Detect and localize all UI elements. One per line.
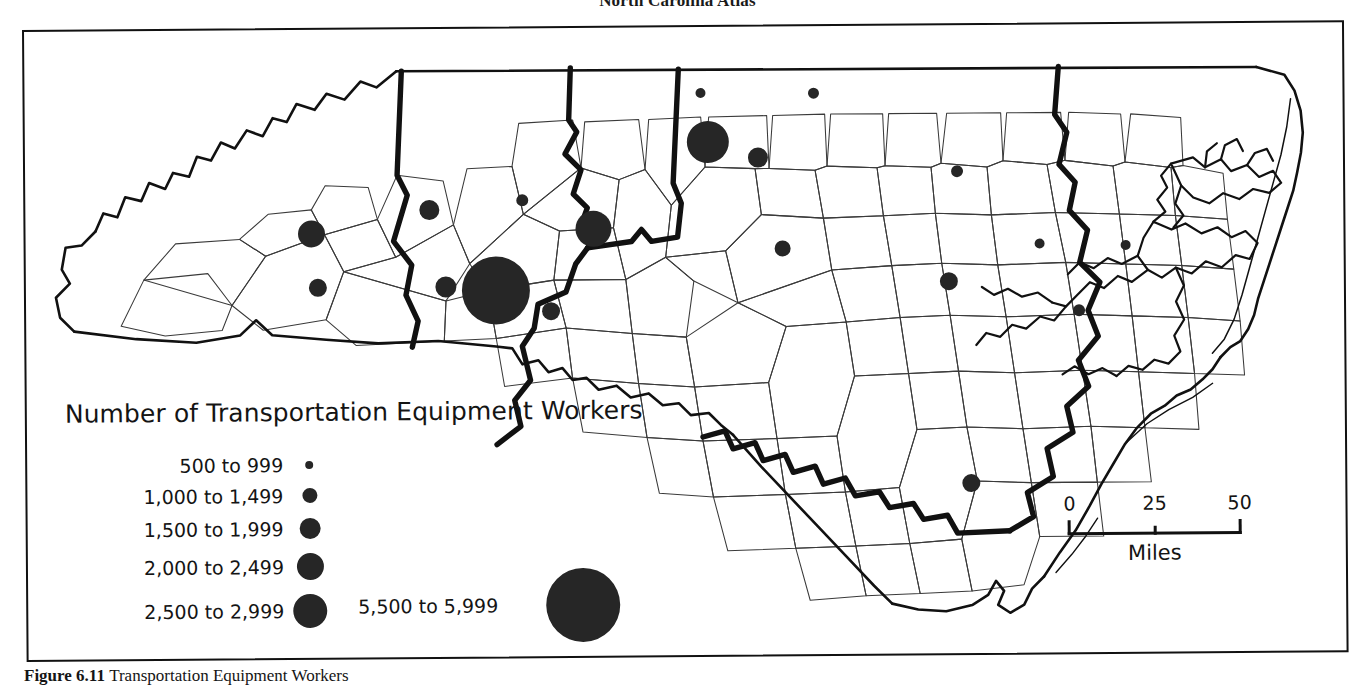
legend-large-label: 5,500 to 5,999 xyxy=(358,595,498,618)
scale-tick-50: 50 xyxy=(1227,491,1251,513)
legend-symbol xyxy=(284,518,336,539)
map-symbol xyxy=(940,272,958,290)
map-symbol xyxy=(575,211,611,247)
scale-tick-0: 0 xyxy=(1063,492,1075,514)
map-symbol xyxy=(695,88,705,98)
map-symbol xyxy=(951,165,963,177)
map-symbol xyxy=(1073,304,1085,316)
sounds-and-estuaries xyxy=(975,139,1283,377)
legend-row: 1,000 to 1,499 xyxy=(65,480,335,513)
map-symbol xyxy=(419,200,439,220)
running-head: North Carolina Atlas xyxy=(0,0,1355,11)
map-symbol xyxy=(1035,239,1045,249)
legend-title: Number of Transportation Equipment Worke… xyxy=(65,395,725,429)
map-symbol xyxy=(748,148,768,168)
scale-bar-graphic xyxy=(1064,517,1264,538)
scale-tick-25: 25 xyxy=(1142,492,1166,514)
map-symbol xyxy=(962,474,980,492)
legend-symbol xyxy=(283,461,335,469)
scale-tick-labels: 0 25 50 xyxy=(1063,491,1263,516)
map-symbol xyxy=(1121,240,1131,250)
map-symbol xyxy=(462,256,530,324)
figure-frame: Number of Transportation Equipment Worke… xyxy=(22,20,1349,662)
map-symbol xyxy=(298,220,325,247)
legend-large-class: 5,500 to 5,999 xyxy=(358,568,620,644)
map-symbol xyxy=(687,121,729,163)
map-symbol xyxy=(542,302,560,320)
legend-row: 500 to 999 xyxy=(65,450,335,482)
scale-bar: 0 25 50 Miles xyxy=(1063,491,1264,565)
legend-row-label: 500 to 999 xyxy=(179,454,283,477)
map-symbol xyxy=(435,276,456,297)
legend-symbol xyxy=(283,488,335,503)
figure-caption: Figure 6.11 Transportation Equipment Wor… xyxy=(24,666,1324,686)
legend-symbol xyxy=(284,594,336,628)
legend-row-label: 1,500 to 1,999 xyxy=(144,518,284,541)
legend-row: 2,500 to 2,999 xyxy=(66,587,336,637)
legend-row-label: 2,500 to 2,999 xyxy=(144,600,284,623)
map-symbol xyxy=(516,194,528,206)
legend-row-label: 1,000 to 1,499 xyxy=(143,485,283,508)
figure-number: Figure 6.11 xyxy=(24,666,105,685)
legend-row-label: 2,000 to 2,499 xyxy=(144,556,284,579)
legend-large-symbol xyxy=(546,568,621,643)
map-symbol xyxy=(775,240,791,256)
legend-symbol xyxy=(284,553,336,580)
legend-row: 2,000 to 2,499 xyxy=(66,546,336,589)
legend-class-list: 500 to 999 1,000 to 1,499 1,500 to 1,999 xyxy=(65,450,336,637)
map-symbol xyxy=(808,88,819,99)
map-legend: Number of Transportation Equipment Worke… xyxy=(65,395,727,650)
legend-row: 1,500 to 1,999 xyxy=(66,511,336,548)
figure-caption-text: Transportation Equipment Workers xyxy=(109,666,348,685)
map-symbol xyxy=(309,279,327,297)
scale-units-label: Miles xyxy=(1064,540,1246,565)
